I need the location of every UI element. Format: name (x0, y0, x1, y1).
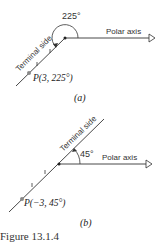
point-dot-a (27, 71, 31, 75)
figure-caption: Figure 13.1.4 (0, 230, 59, 242)
axis-label-b: Polar axis (102, 153, 137, 162)
terminal-label-b: Terminal side (58, 114, 99, 154)
terminal-label-a: Terminal side (14, 33, 54, 73)
axis-arrowhead-a (149, 34, 155, 42)
polar-coordinates-diagram: 225° Polar axis Terminal side P(3, 225°)… (0, 0, 158, 244)
origin-dot-a (64, 37, 67, 40)
axis-arrowhead-b (146, 160, 152, 168)
sublabel-a: (a) (74, 92, 86, 104)
origin-dot-b (58, 163, 61, 166)
point-label-b: P(−3, 45°) (23, 198, 65, 209)
figure-b: 45° Polar axis Terminal side P(−3, 45°) … (9, 114, 152, 229)
figure-a: 225° Polar axis Terminal side P(3, 225°)… (14, 11, 155, 104)
angle-label-b: 45° (80, 149, 94, 159)
sublabel-b: (b) (80, 217, 92, 229)
point-label-a: P(3, 225°) (32, 73, 73, 84)
axis-label-a: Polar axis (106, 27, 141, 36)
angle-label-a: 225° (62, 11, 81, 21)
